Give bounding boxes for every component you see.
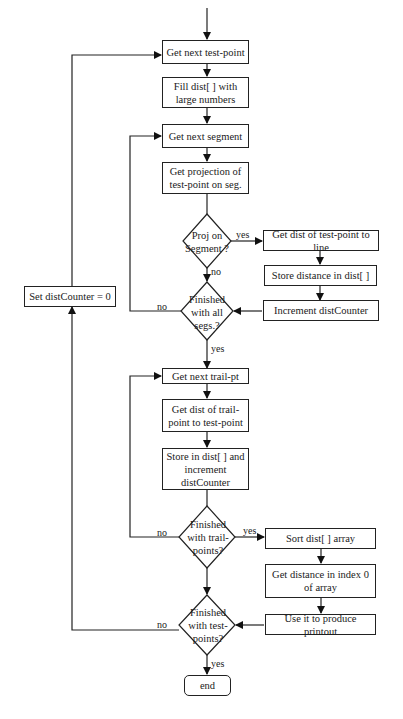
label-segs-yes: yes: [211, 343, 224, 354]
label-test-yes: yes: [211, 658, 224, 669]
decision-proj-on-segment: Proj on Segment ?: [183, 222, 231, 262]
process-sort-dist: Sort dist[ ] array: [265, 528, 376, 549]
label-proj-yes: yes: [236, 229, 249, 240]
process-store-and-increment: Store in dist[ ] and increment distCount…: [162, 448, 249, 490]
label-proj-no: no: [211, 266, 221, 277]
decision-finished-test: Finished with test-points?: [180, 606, 236, 644]
process-get-next-test-point: Get next test-point: [162, 40, 249, 64]
label-trail-no: no: [157, 527, 167, 538]
label-test-no: no: [157, 619, 167, 630]
process-increment-counter: Increment distCounter: [263, 300, 379, 321]
decision-finished-trail: Finished with trail-points?: [180, 518, 236, 556]
terminal-end: end: [184, 675, 231, 696]
label-segs-no: no: [157, 301, 167, 312]
process-get-projection: Get projection of test-point on seg.: [162, 162, 249, 194]
process-get-dist-to-line: Get dist of test-point to line: [263, 230, 379, 251]
process-get-next-segment: Get next segment: [162, 124, 249, 148]
process-produce-printout: Use it to produce printout: [265, 614, 376, 635]
process-set-dist-counter: Set distCounter = 0: [24, 286, 116, 307]
process-get-distance-index0: Get distance in index 0 of array: [265, 564, 376, 598]
process-store-distance: Store distance in dist[ ]: [264, 265, 377, 286]
process-get-next-trail-pt: Get next trail-pt: [162, 368, 249, 384]
process-get-dist-trail: Get dist of trail-point to test-point: [162, 399, 249, 432]
label-trail-yes: yes: [243, 525, 256, 536]
decision-finished-segs: Finished with all segs.?: [183, 292, 231, 332]
process-fill-dist: Fill dist[ ] with large numbers: [162, 77, 249, 108]
